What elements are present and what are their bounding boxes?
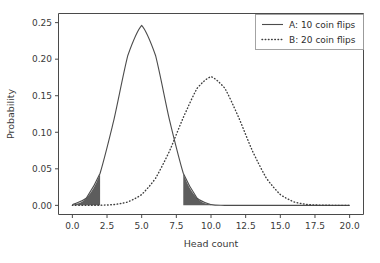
x-tick-label: 7.5: [169, 221, 183, 231]
y-axis-label: Probability: [5, 89, 16, 140]
x-tick-label: 17.5: [305, 221, 325, 231]
figure-canvas: 0.02.55.07.510.012.515.017.520.0 0.000.0…: [0, 0, 380, 263]
x-tick-label: 15.0: [270, 221, 290, 231]
x-tick-label: 5.0: [135, 221, 150, 231]
y-tick-label: 0.25: [32, 18, 52, 28]
legend-label-b: B: 20 coin flips: [289, 35, 356, 45]
x-tick-label: 10.0: [201, 221, 221, 231]
x-tick-label: 0.0: [65, 221, 80, 231]
x-tick-label: 20.0: [340, 221, 360, 231]
binomial-distribution-chart: 0.02.55.07.510.012.515.017.520.0 0.000.0…: [0, 0, 380, 263]
chart-legend[interactable]: A: 10 coin flips B: 20 coin flips: [256, 15, 364, 50]
x-axis-label: Head count: [184, 238, 239, 249]
y-tick-label: 0.05: [32, 164, 52, 174]
y-tick-label: 0.10: [32, 128, 52, 138]
x-tick-label: 12.5: [236, 221, 256, 231]
x-tick-label: 2.5: [100, 221, 114, 231]
y-tick-label: 0.15: [32, 91, 52, 101]
legend-label-a: A: 10 coin flips: [289, 20, 356, 30]
y-tick-label: 0.20: [32, 54, 52, 64]
y-tick-label: 0.00: [32, 201, 52, 211]
